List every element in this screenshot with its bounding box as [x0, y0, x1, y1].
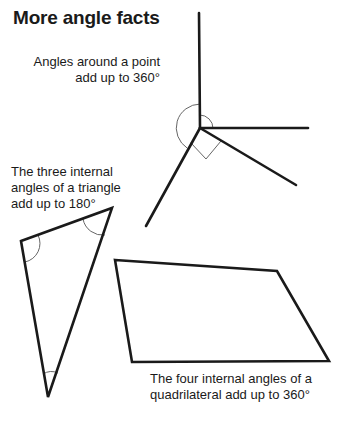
angles-around-point-figure [146, 13, 308, 226]
triangle-figure [21, 208, 112, 397]
small-angle-arc [200, 115, 213, 128]
ray-up [199, 13, 200, 128]
triangle-angle-arc-top-right [83, 219, 105, 235]
quadrilateral [115, 260, 329, 362]
right-angle-marker [191, 141, 221, 159]
ray-lower-left [146, 128, 200, 226]
quadrilateral-figure [115, 260, 329, 362]
large-angle-arc [176, 104, 200, 148]
triangle [21, 208, 112, 397]
angle-diagram [0, 0, 339, 424]
ray-lower-right [200, 128, 296, 185]
